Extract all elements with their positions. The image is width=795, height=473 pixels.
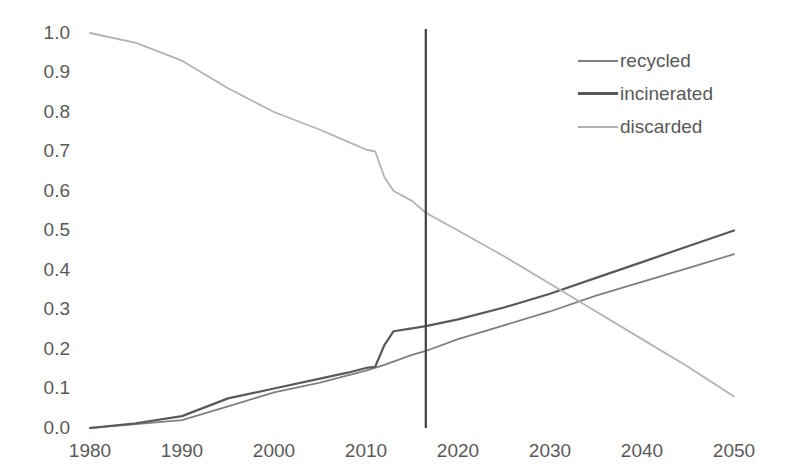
chart-legend: recycled incinerated discarded <box>578 44 713 143</box>
x-tick-label-2050: 2050 <box>699 441 769 460</box>
y-tick-label-0.8: 0.8 <box>18 102 70 121</box>
legend-swatch-incinerated <box>578 92 618 95</box>
y-tick-label-0.5: 0.5 <box>18 220 70 239</box>
x-tick-label-1980: 1980 <box>55 441 125 460</box>
legend-label-recycled: recycled <box>620 51 691 70</box>
y-tick-label-0.3: 0.3 <box>18 299 70 318</box>
legend-item-discarded: discarded <box>578 110 713 143</box>
legend-label-discarded: discarded <box>620 117 702 136</box>
x-tick-label-1990: 1990 <box>147 441 217 460</box>
x-tick-label-2010: 2010 <box>331 441 401 460</box>
y-tick-label-0.9: 0.9 <box>18 62 70 81</box>
chart-container: 1.00.90.80.70.60.50.40.30.20.10.0 198019… <box>0 0 795 473</box>
legend-swatch-recycled <box>578 60 618 62</box>
legend-item-incinerated: incinerated <box>578 77 713 110</box>
y-tick-label-0.1: 0.1 <box>18 378 70 397</box>
y-tick-label-0.0: 0.0 <box>18 418 70 437</box>
y-tick-label-1.0: 1.0 <box>18 23 70 42</box>
y-tick-label-0.4: 0.4 <box>18 260 70 279</box>
legend-item-recycled: recycled <box>578 44 713 77</box>
series-line-incinerated <box>90 231 734 429</box>
legend-swatch-discarded <box>578 126 618 128</box>
y-tick-label-0.7: 0.7 <box>18 141 70 160</box>
x-tick-label-2000: 2000 <box>239 441 309 460</box>
x-tick-label-2030: 2030 <box>515 441 585 460</box>
x-tick-label-2040: 2040 <box>607 441 677 460</box>
legend-label-incinerated: incinerated <box>620 84 713 103</box>
y-tick-label-0.2: 0.2 <box>18 339 70 358</box>
y-tick-label-0.6: 0.6 <box>18 181 70 200</box>
x-tick-label-2020: 2020 <box>423 441 493 460</box>
series-line-recycled <box>90 254 734 428</box>
